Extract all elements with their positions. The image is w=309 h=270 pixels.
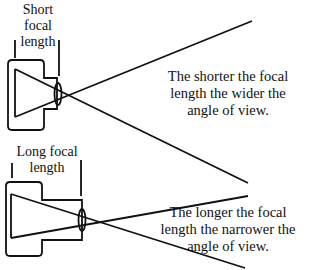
long-focal-label: Long focal length (5, 144, 89, 176)
short-lens (55, 83, 62, 105)
short-caption: The shorter the focal length the wider t… (148, 68, 308, 119)
short-focal-label: Short focal length (17, 2, 59, 50)
long-camera-body (6, 182, 82, 256)
long-caption: The longer the focal length the narrower… (146, 204, 309, 255)
